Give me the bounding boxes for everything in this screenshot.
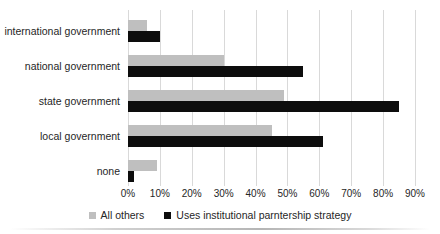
bar-uses-strategy [128,101,399,112]
bar-chart: international governmentnational governm… [0,0,440,234]
legend-swatch-icon [164,212,171,219]
legend-swatch-icon [89,212,96,219]
bar-all-others [128,55,224,66]
gridline [351,10,352,186]
bar-all-others [128,90,284,101]
bar-uses-strategy [128,66,303,77]
category-label: international government [0,25,120,37]
category-label: national government [0,60,120,72]
plot-area [128,10,422,186]
x-axis: 0%10%20%30%40%50%60%70%80%90% [0,188,440,202]
gridline [383,10,384,186]
category-label: state government [0,95,120,107]
x-tick-label: 10% [143,188,177,199]
x-tick-label: 0% [111,188,145,199]
bottom-edge-shadow [10,228,430,230]
bar-all-others [128,20,147,31]
legend-item-uses-strategy: Uses institutional parntership strategy [164,209,351,221]
bar-uses-strategy [128,31,160,42]
bar-all-others [128,160,157,171]
category-axis: international governmentnational governm… [0,0,122,190]
gridline [319,10,320,186]
x-tick-label: 40% [239,188,273,199]
bar-all-others [128,125,272,136]
legend-item-all-others: All others [89,209,145,221]
bar-uses-strategy [128,171,134,182]
x-tick-label: 70% [334,188,368,199]
legend-label: All others [101,209,145,221]
gridline [415,10,416,186]
bar-uses-strategy [128,136,323,147]
category-label: local government [0,130,120,142]
gridline [287,10,288,186]
x-tick-label: 60% [302,188,336,199]
legend: All othersUses institutional parntership… [0,209,440,221]
x-tick-label: 50% [270,188,304,199]
x-tick-label: 30% [207,188,241,199]
x-tick-label: 20% [175,188,209,199]
category-label: none [0,165,120,177]
legend-label: Uses institutional parntership strategy [176,209,351,221]
x-tick-label: 90% [398,188,432,199]
x-tick-label: 80% [366,188,400,199]
